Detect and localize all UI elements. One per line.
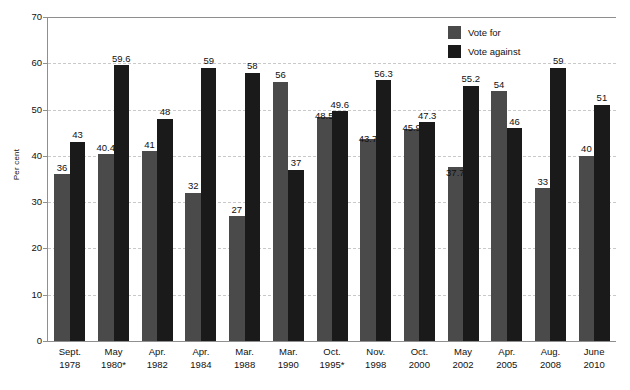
bar — [229, 216, 245, 341]
y-axis-tick-label: 20 — [16, 243, 42, 253]
x-axis-tick-label: Apr.1982 — [135, 346, 179, 371]
x-axis-tick-label-year: 1988 — [223, 359, 267, 372]
y-axis-tick-mark — [43, 248, 48, 249]
x-axis-tick-label-month: Aug. — [529, 346, 573, 359]
legend-swatch-icon — [448, 26, 461, 39]
x-axis-tick-label: Nov.1998 — [354, 346, 398, 371]
x-axis-tick-label: Sept.1978 — [48, 346, 92, 371]
y-axis-tick-label: 30 — [16, 197, 42, 207]
bar — [288, 170, 304, 341]
bar-value-label: 51 — [587, 93, 617, 103]
x-axis-tick-label: Apr.1984 — [179, 346, 223, 371]
x-axis-tick-label-month: Sept. — [48, 346, 92, 359]
x-axis-tick-label-month: Apr. — [485, 346, 529, 359]
bar-value-label: 37 — [281, 158, 311, 168]
y-axis-tick-mark — [43, 156, 48, 157]
bar — [448, 167, 464, 341]
x-axis-tick-label-year: 1998 — [354, 359, 398, 372]
bar-value-label: 59.6 — [107, 54, 137, 64]
legend: Vote forVote against — [448, 24, 568, 62]
bar — [360, 139, 376, 341]
y-axis-tick-mark — [43, 341, 48, 342]
x-axis-tick-label-year: 1990 — [266, 359, 310, 372]
bar — [185, 193, 201, 341]
x-axis-tick-labels: Sept.1978May1980*Apr.1982Apr.1984Mar.198… — [48, 346, 616, 386]
x-axis-tick-label-month: Oct. — [310, 346, 354, 359]
x-axis-tick-label-month: May — [92, 346, 136, 359]
y-axis-tick-labels: 010203040506070 — [12, 0, 42, 390]
bar — [245, 73, 261, 341]
x-axis-tick-label: May1980* — [92, 346, 136, 371]
bar — [157, 119, 173, 341]
x-axis-tick-label-month: Apr. — [179, 346, 223, 359]
bar-value-label: 59 — [194, 56, 224, 66]
bar-value-label: 48 — [150, 107, 180, 117]
bar — [376, 80, 392, 341]
x-axis-tick-label: Mar.1990 — [266, 346, 310, 371]
x-axis-tick-label-month: Mar. — [266, 346, 310, 359]
x-axis-tick-label-month: May — [441, 346, 485, 359]
bar-value-label: 49.6 — [325, 100, 355, 110]
bar — [114, 65, 130, 341]
y-axis-tick-mark — [43, 63, 48, 64]
legend-item-label: Vote against — [468, 46, 520, 57]
legend-item[interactable]: Vote for — [448, 24, 568, 41]
x-axis-tick-label-year: 2010 — [572, 359, 616, 372]
x-axis-line — [44, 341, 616, 342]
x-axis-tick-label-year: 1995* — [310, 359, 354, 372]
bar — [579, 156, 595, 341]
x-axis-tick-label-month: Apr. — [135, 346, 179, 359]
bar — [463, 86, 479, 341]
x-axis-tick-label-year: 2002 — [441, 359, 485, 372]
bars-layer: 364340.459.6414832592758563748.549.643.7… — [48, 17, 616, 341]
bar — [317, 117, 333, 341]
x-axis-tick-label: Apr.2005 — [485, 346, 529, 371]
x-axis-tick-label-year: 1984 — [179, 359, 223, 372]
bar — [594, 105, 610, 341]
bar — [332, 111, 348, 341]
legend-item-label: Vote for — [468, 27, 501, 38]
plot-area: 364340.459.6414832592758563748.549.643.7… — [48, 17, 616, 341]
y-axis-tick-label: 50 — [16, 105, 42, 115]
bar-value-label: 55.2 — [456, 74, 486, 84]
bar-value-label: 54 — [484, 80, 514, 90]
bar — [273, 82, 289, 341]
x-axis-tick-label-month: Nov. — [354, 346, 398, 359]
bar — [491, 91, 507, 341]
bar — [419, 122, 435, 341]
x-axis-tick-label-year: 1982 — [135, 359, 179, 372]
x-axis-tick-label-year: 2005 — [485, 359, 529, 372]
bar-value-label: 46 — [500, 117, 530, 127]
y-axis-tick-mark — [43, 295, 48, 296]
bar-value-label: 58 — [238, 61, 268, 71]
x-axis-tick-label: Oct.2000 — [398, 346, 442, 371]
bar-value-label: 43 — [63, 130, 93, 140]
bar — [142, 151, 158, 341]
x-axis-tick-label-month: Mar. — [223, 346, 267, 359]
y-axis-tick-mark — [43, 202, 48, 203]
bar — [550, 68, 566, 341]
bar — [70, 142, 86, 341]
y-axis-tick-label: 0 — [16, 336, 42, 346]
y-axis-tick-mark — [43, 17, 48, 18]
bar-value-label: 56.3 — [369, 69, 399, 79]
x-axis-tick-label: June2010 — [572, 346, 616, 371]
x-axis-tick-label-month: June — [572, 346, 616, 359]
bar-value-label: 56 — [266, 70, 296, 80]
x-axis-tick-label: May2002 — [441, 346, 485, 371]
legend-item[interactable]: Vote against — [448, 43, 568, 60]
y-axis-tick-mark — [43, 110, 48, 111]
bar — [535, 188, 551, 341]
x-axis-tick-label: Oct.1995* — [310, 346, 354, 371]
legend-swatch-icon — [448, 45, 461, 58]
x-axis-tick-label-year: 1978 — [48, 359, 92, 372]
x-axis-tick-label: Aug.2008 — [529, 346, 573, 371]
x-axis-tick-label-year: 2000 — [398, 359, 442, 372]
x-axis-tick-label-month: Oct. — [398, 346, 442, 359]
y-axis-tick-label: 40 — [16, 151, 42, 161]
bar — [54, 174, 70, 341]
bar-value-label: 47.3 — [412, 111, 442, 121]
bar — [507, 128, 523, 341]
y-axis-tick-label: 70 — [16, 12, 42, 22]
bar — [404, 129, 420, 341]
